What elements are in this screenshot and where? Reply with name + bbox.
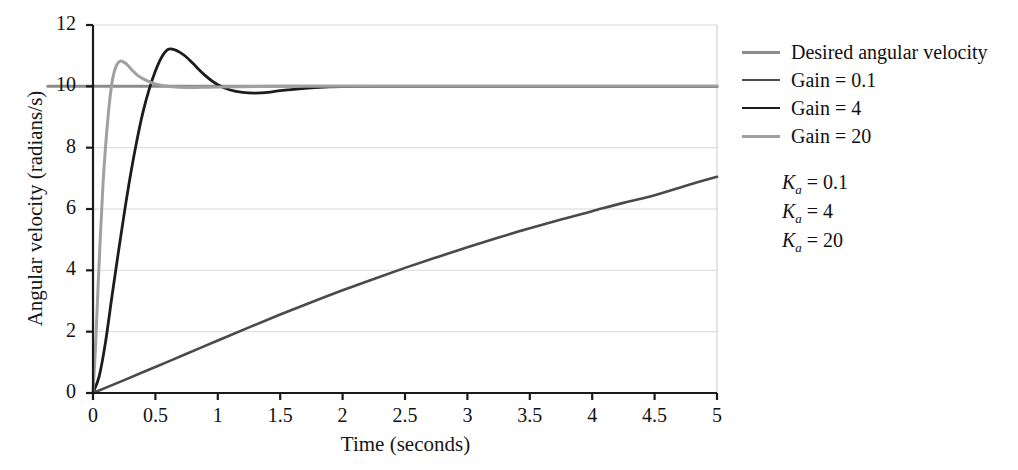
ka-value: = 4 <box>802 200 833 222</box>
x-axis-title: Time (seconds) <box>93 432 718 457</box>
x-tick-label: 1.5 <box>250 404 310 427</box>
series-line-3 <box>93 61 717 393</box>
legend-label: Desired angular velocity <box>791 42 988 62</box>
y-tick-label: 0 <box>36 380 76 403</box>
x-tick-label: 4 <box>562 404 622 427</box>
chart-page: Angular velocity (radians/s) Time (secon… <box>0 0 1018 470</box>
y-tick-label: 6 <box>36 196 76 219</box>
legend-line-swatch <box>742 135 780 138</box>
legend-item[interactable]: Gain = 0.1 <box>742 66 1014 94</box>
x-tick-label: 4.5 <box>625 404 685 427</box>
chart-legend: Desired angular velocityGain = 0.1Gain =… <box>742 38 1014 150</box>
x-tick-label: 5 <box>687 404 747 427</box>
angular-velocity-chart: Angular velocity (radians/s) Time (secon… <box>0 0 1018 470</box>
legend-item[interactable]: Gain = 4 <box>742 94 1014 122</box>
legend-item[interactable]: Desired angular velocity <box>742 38 1014 66</box>
y-tick-label: 10 <box>36 73 76 96</box>
y-tick-label: 12 <box>36 12 76 35</box>
legend-line-swatch <box>742 107 780 109</box>
y-tick-label: 2 <box>36 319 76 342</box>
legend-line-swatch <box>742 79 780 81</box>
y-tick-label: 8 <box>36 135 76 158</box>
x-tick-label: 2 <box>313 404 373 427</box>
ka-value: = 20 <box>802 229 843 251</box>
legend-item[interactable]: Gain = 20 <box>742 122 1014 150</box>
y-tick-label: 4 <box>36 257 76 280</box>
legend-line-swatch <box>742 51 780 54</box>
ka-annotation: Ka = 0.1 <box>782 168 848 197</box>
ka-symbol: K <box>782 171 795 193</box>
x-tick-label: 2.5 <box>375 404 435 427</box>
x-tick-label: 3 <box>437 404 497 427</box>
x-tick-label: 3.5 <box>500 404 560 427</box>
x-tick-label: 1 <box>188 404 248 427</box>
ka-annotation: Ka = 20 <box>782 226 848 255</box>
legend-label: Gain = 0.1 <box>791 70 876 90</box>
ka-symbol: K <box>782 229 795 251</box>
legend-label: Gain = 20 <box>791 126 871 146</box>
ka-annotation: Ka = 4 <box>782 197 848 226</box>
x-tick-label: 0.5 <box>125 404 185 427</box>
ka-annotation-group: Ka = 0.1Ka = 4Ka = 20 <box>782 168 848 255</box>
ka-symbol: K <box>782 200 795 222</box>
x-tick-label: 0 <box>63 404 123 427</box>
series-line-2 <box>93 49 717 393</box>
legend-label: Gain = 4 <box>791 98 861 118</box>
ka-value: = 0.1 <box>802 171 848 193</box>
